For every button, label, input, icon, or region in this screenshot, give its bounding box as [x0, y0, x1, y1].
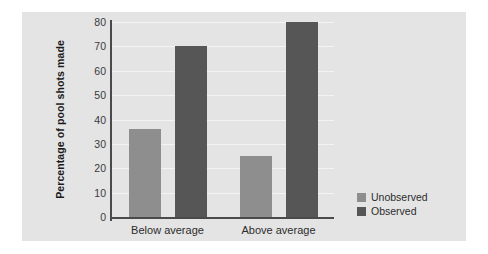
figure: 01020304050607080 Percentage of pool sho… — [0, 0, 488, 254]
legend: UnobservedObserved — [357, 191, 457, 219]
x-axis-label: Above average — [219, 224, 339, 236]
legend-swatch-icon — [357, 207, 366, 216]
x-axis-label: Below average — [108, 224, 228, 236]
legend-label: Observed — [371, 206, 417, 217]
legend-swatch-icon — [357, 193, 366, 202]
legend-item: Unobserved — [357, 191, 457, 204]
legend-item: Observed — [357, 205, 457, 218]
chart-panel: 01020304050607080 Percentage of pool sho… — [22, 12, 466, 241]
legend-label: Unobserved — [371, 192, 428, 203]
